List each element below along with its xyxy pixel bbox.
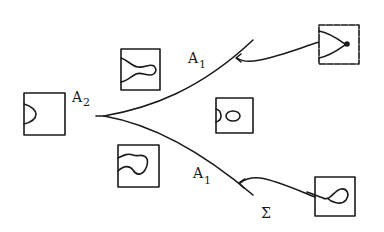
inset-top-right-point xyxy=(345,42,349,46)
inset-top-right-frame xyxy=(319,25,359,64)
label-lower-sub: 1 xyxy=(204,174,211,187)
inset-left xyxy=(24,93,65,135)
label-upper-sub: 1 xyxy=(199,58,206,71)
label-cusp-sub: 2 xyxy=(83,96,90,109)
label-cusp-main: A xyxy=(71,89,83,105)
inset-left-frame xyxy=(24,93,65,135)
upper-connector-arrow xyxy=(237,42,319,61)
lower-branch-curve xyxy=(104,116,253,195)
label-sigma: Σ xyxy=(261,205,271,221)
bifurcation-diagram: A 2 A 1 A 1 Σ xyxy=(0,0,384,232)
inset-top-right-curve-lower xyxy=(319,45,345,58)
inset-top-middle xyxy=(121,49,160,90)
inset-bottom-middle xyxy=(118,145,159,187)
inset-bottom-middle-curve xyxy=(118,154,148,174)
upper-branch-curve xyxy=(104,40,253,116)
inset-left-arc xyxy=(24,104,36,124)
label-cusp: A 2 xyxy=(71,89,90,109)
label-upper-main: A xyxy=(187,50,199,66)
inset-top-right xyxy=(319,25,359,64)
inset-top-right-curve-upper xyxy=(319,31,345,44)
inset-top-middle-curve xyxy=(121,58,156,82)
inset-center-oval xyxy=(226,111,240,121)
inset-bottom-middle-frame xyxy=(118,145,159,187)
label-lower-branch: A 1 xyxy=(192,165,211,187)
label-lower-main: A xyxy=(192,165,204,181)
label-upper-branch: A 1 xyxy=(187,50,206,71)
inset-top-middle-frame xyxy=(121,49,160,90)
inset-center xyxy=(216,98,253,133)
